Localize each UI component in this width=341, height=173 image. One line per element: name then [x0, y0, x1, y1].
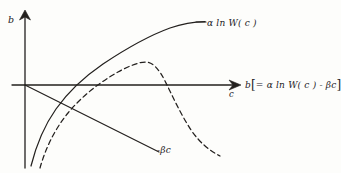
- y-axis-label: b: [8, 15, 14, 25]
- x-axis-expression-body: = α ln W( c ) - βc: [256, 80, 337, 90]
- x-axis-expression-label: b[= α ln W( c ) - βc]: [245, 79, 341, 91]
- curve-label-alpha-ln-w: α ln W( c ): [207, 19, 257, 28]
- curve-net-benefit-dashed: [40, 62, 220, 168]
- y-axis: [20, 10, 31, 168]
- curve-label-minus-beta-c: -βc: [157, 146, 171, 155]
- curve-alpha-ln-w: [31, 22, 205, 166]
- line-minus-beta-c: [25, 85, 159, 152]
- x-axis: [12, 80, 241, 90]
- bracket-close: ]: [336, 78, 341, 92]
- figure-canvas: b α ln W( c ) b[= α ln W( c ) - βc] c -β…: [0, 0, 341, 173]
- x-axis-label: c: [229, 90, 234, 99]
